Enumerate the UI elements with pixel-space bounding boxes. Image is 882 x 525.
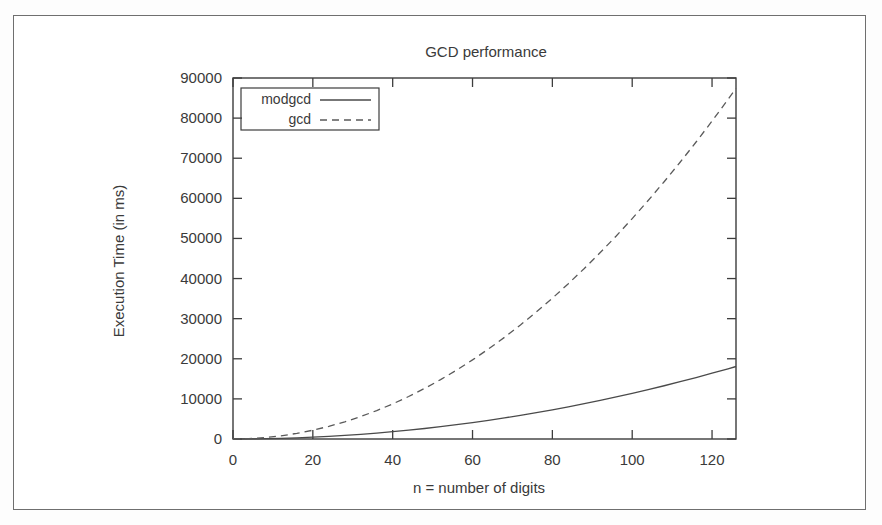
y-tick-label: 20000	[180, 350, 222, 367]
y-tick-label: 0	[214, 430, 222, 447]
x-tick-label: 60	[464, 451, 481, 468]
series-layer	[233, 88, 736, 439]
x-tick-label: 120	[700, 451, 725, 468]
y-tick-label: 90000	[180, 69, 222, 86]
legend-item-modgcd-label: modgcd	[261, 91, 311, 107]
y-axis-title: Execution Time (in ms)	[110, 185, 127, 338]
y-tick-label: 30000	[180, 310, 222, 327]
y-tick-label: 50000	[180, 229, 222, 246]
y-tick-label: 40000	[180, 270, 222, 287]
y-tick-label: 70000	[180, 149, 222, 166]
screenshot-page: GCD performance Execution Time (in ms) n…	[0, 0, 882, 525]
x-tick-label: 40	[384, 451, 401, 468]
legend-item-gcd-label: gcd	[288, 111, 311, 127]
series-line-modgcd	[233, 367, 736, 440]
plot-frame	[233, 78, 736, 439]
y-tick-label: 80000	[180, 109, 222, 126]
x-axis-title: n = number of digits	[413, 479, 545, 496]
scanned-page-border: GCD performance Execution Time (in ms) n…	[13, 15, 866, 510]
x-tick-label: 0	[229, 451, 237, 468]
chart-title: GCD performance	[425, 43, 547, 60]
x-tick-label: 20	[304, 451, 321, 468]
x-tick-label: 80	[544, 451, 561, 468]
x-tick-label: 100	[620, 451, 645, 468]
y-tick-label: 10000	[180, 390, 222, 407]
y-tick-label: 60000	[180, 189, 222, 206]
x-axis: 020406080100120	[229, 78, 725, 468]
y-axis: 0100002000030000400005000060000700008000…	[180, 69, 736, 447]
gcd-performance-chart: GCD performance Execution Time (in ms) n…	[14, 16, 867, 511]
chart-legend: modgcd gcd	[241, 88, 379, 130]
